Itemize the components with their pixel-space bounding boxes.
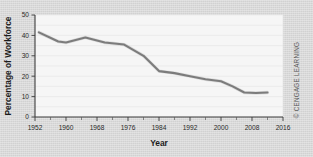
y-tick-label: 0 <box>25 113 29 120</box>
y-tick-label: 40 <box>22 32 30 39</box>
x-tick-label: 2016 <box>276 124 291 131</box>
x-tick-label: 2000 <box>214 124 229 131</box>
y-tick-label: 30 <box>22 52 30 59</box>
x-tick-label: 1976 <box>121 124 136 131</box>
x-tick-label: 2008 <box>245 124 260 131</box>
y-tick-label: 20 <box>22 73 30 80</box>
x-tick-label: 1952 <box>28 124 43 131</box>
x-axis-tick-labels: 1952 1960 1968 1976 1984 1992 2000 2008 … <box>28 124 291 131</box>
x-tick-label: 1960 <box>59 124 74 131</box>
x-axis-title: Year <box>150 138 168 148</box>
x-tick-label: 1968 <box>90 124 105 131</box>
copyright-credit: © CENGAGE LEARNING <box>293 42 300 118</box>
x-tick-label: 1984 <box>152 124 167 131</box>
y-tick-label: 10 <box>22 93 30 100</box>
y-tick-label: 50 <box>22 11 30 18</box>
y-axis-title: Percentage of Workforce <box>3 16 13 115</box>
x-tick-label: 1992 <box>183 124 198 131</box>
union-membership-line-chart: 0 10 20 30 40 50 <box>0 0 313 157</box>
y-axis-tick-labels: 0 10 20 30 40 50 <box>22 11 30 120</box>
chart-figure: 0 10 20 30 40 50 <box>0 0 313 157</box>
x-axis-ticks <box>35 117 283 121</box>
